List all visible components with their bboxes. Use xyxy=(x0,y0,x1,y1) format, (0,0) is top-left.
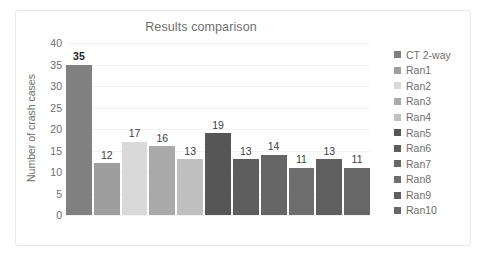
bar-data-label: 16 xyxy=(149,133,175,144)
legend-swatch-icon xyxy=(394,129,401,136)
legend-swatch-icon xyxy=(394,192,401,199)
legend-item[interactable]: Ran4 xyxy=(394,109,483,125)
bar-column[interactable]: 19 xyxy=(205,43,231,215)
y-axis-title: Number of crash cases xyxy=(24,47,38,209)
bar-rect[interactable] xyxy=(261,155,287,215)
legend-item[interactable]: Ran3 xyxy=(394,94,483,110)
legend-item[interactable]: Ran2 xyxy=(394,78,483,94)
bar-column[interactable]: 35 xyxy=(66,43,92,215)
legend-item[interactable]: Ran6 xyxy=(394,141,483,157)
bar-column[interactable]: 11 xyxy=(344,43,370,215)
bar-column[interactable]: 13 xyxy=(233,43,259,215)
legend-swatch-icon xyxy=(394,98,401,105)
legend-item[interactable]: Ran5 xyxy=(394,125,483,141)
chart-container: Results comparison Number of crash cases… xyxy=(15,10,471,246)
legend-swatch-icon xyxy=(394,160,401,167)
legend-label: Ran10 xyxy=(406,205,437,216)
y-axis-tick-label: 30 xyxy=(38,81,62,92)
bar-rect[interactable] xyxy=(94,163,120,215)
plot-area: 3512171613191314111311 xyxy=(66,43,370,215)
legend-label: CT 2-way xyxy=(406,50,451,61)
y-axis-tick-label: 40 xyxy=(38,38,62,49)
gridline xyxy=(66,215,370,216)
legend-label: Ran5 xyxy=(406,128,431,139)
bar-data-label: 14 xyxy=(261,141,287,152)
bar-data-label: 35 xyxy=(66,51,92,62)
legend-label: Ran1 xyxy=(406,65,431,76)
bar-data-label: 19 xyxy=(205,120,231,131)
bar-column[interactable]: 16 xyxy=(149,43,175,215)
bar-data-label: 11 xyxy=(289,154,315,165)
bar-data-label: 13 xyxy=(316,146,342,157)
legend-swatch-icon xyxy=(394,114,401,121)
bar-rect[interactable] xyxy=(233,159,259,215)
legend-item[interactable]: CT 2-way xyxy=(394,47,483,63)
legend-swatch-icon xyxy=(394,207,401,214)
chart-legend: CT 2-wayRan1Ran2Ran3Ran4Ran5Ran6Ran7Ran8… xyxy=(394,47,483,219)
bar-data-label: 13 xyxy=(177,146,203,157)
legend-label: Ran2 xyxy=(406,81,431,92)
legend-swatch-icon xyxy=(394,82,401,89)
bar-rect[interactable] xyxy=(122,142,148,215)
legend-item[interactable]: Ran10 xyxy=(394,203,483,219)
legend-item[interactable]: Ran8 xyxy=(394,172,483,188)
bar-rect[interactable] xyxy=(316,159,342,215)
legend-label: Ran4 xyxy=(406,112,431,123)
bar-rect[interactable] xyxy=(177,159,203,215)
y-axis-tick-label: 10 xyxy=(38,167,62,178)
y-axis-tick-label: 15 xyxy=(38,145,62,156)
legend-swatch-icon xyxy=(394,51,401,58)
bar-rect[interactable] xyxy=(205,133,231,215)
bar-column[interactable]: 17 xyxy=(122,43,148,215)
bar-rect[interactable] xyxy=(149,146,175,215)
bar-data-label: 12 xyxy=(94,150,120,161)
y-axis-tick-label: 35 xyxy=(38,59,62,70)
legend-swatch-icon xyxy=(394,145,401,152)
legend-item[interactable]: Ran1 xyxy=(394,63,483,79)
bar-rect[interactable] xyxy=(344,168,370,215)
legend-label: Ran3 xyxy=(406,96,431,107)
y-axis-tick-labels: 4035302520151050 xyxy=(38,43,62,215)
bar-column[interactable]: 13 xyxy=(316,43,342,215)
legend-label: Ran9 xyxy=(406,190,431,201)
legend-label: Ran7 xyxy=(406,159,431,170)
y-axis-tick-label: 25 xyxy=(38,102,62,113)
bar-column[interactable]: 11 xyxy=(289,43,315,215)
bar-series: 3512171613191314111311 xyxy=(66,43,370,215)
bar-column[interactable]: 14 xyxy=(261,43,287,215)
bar-rect[interactable] xyxy=(289,168,315,215)
bar-data-label: 13 xyxy=(233,146,259,157)
chart-title: Results comparison xyxy=(16,20,386,34)
bar-data-label: 17 xyxy=(122,128,148,139)
legend-swatch-icon xyxy=(394,176,401,183)
legend-swatch-icon xyxy=(394,67,401,74)
bar-data-label: 11 xyxy=(344,154,370,165)
bar-rect[interactable] xyxy=(66,65,92,216)
y-axis-tick-label: 0 xyxy=(38,210,62,221)
legend-item[interactable]: Ran9 xyxy=(394,187,483,203)
legend-item[interactable]: Ran7 xyxy=(394,156,483,172)
bar-column[interactable]: 12 xyxy=(94,43,120,215)
legend-label: Ran6 xyxy=(406,143,431,154)
legend-label: Ran8 xyxy=(406,174,431,185)
y-axis-tick-label: 20 xyxy=(38,124,62,135)
bar-column[interactable]: 13 xyxy=(177,43,203,215)
y-axis-tick-label: 5 xyxy=(38,188,62,199)
